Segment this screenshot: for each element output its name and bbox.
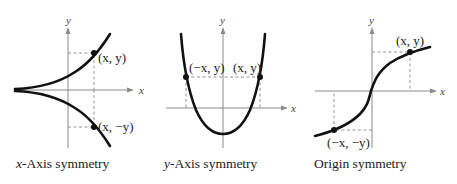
point-x-y xyxy=(407,49,413,55)
curve-lower xyxy=(15,91,110,146)
point-x-y xyxy=(91,50,97,56)
caption-text: -Axis symmetry xyxy=(22,156,109,171)
label-x-y: (x, y) xyxy=(98,50,126,65)
caption-text: -Axis symmetry xyxy=(170,156,257,171)
x-axis-label: x xyxy=(138,84,144,96)
y-axis-arrow-icon xyxy=(66,27,71,34)
curve-upper xyxy=(15,34,110,89)
label-neg-x-y: (−x, y) xyxy=(189,60,225,75)
guide-lines-lower xyxy=(334,91,372,130)
y-axis-label: y xyxy=(368,14,374,26)
x-axis-label: x xyxy=(439,85,445,97)
label-x-y: (x, y) xyxy=(396,33,424,48)
y-axis-arrow-icon xyxy=(370,27,375,34)
caption-origin-symmetry: Origin symmetry xyxy=(314,156,407,172)
x-axis-label: x xyxy=(290,102,296,114)
label-x-y: (x, y) xyxy=(233,60,261,75)
point-x-neg-y xyxy=(91,124,97,130)
y-axis-arrow-icon xyxy=(221,27,226,34)
x-axis-arrow-icon xyxy=(430,89,437,94)
point-neg-x-neg-y xyxy=(331,127,337,133)
caption-y-axis-symmetry: y-Axis symmetry xyxy=(164,156,257,172)
x-axis-arrow-icon xyxy=(127,88,134,93)
label-x-neg-y: (x, −y) xyxy=(98,119,134,134)
panel-x-axis-symmetry: y x (x, y) (x, −y) xyxy=(14,14,144,148)
y-axis-label: y xyxy=(65,14,71,26)
panel-y-axis-symmetry: y x (−x, y) (x, y) xyxy=(166,14,296,148)
label-neg-x-neg-y: (−x, −y) xyxy=(327,135,370,150)
guide-lines-upper xyxy=(372,52,410,91)
x-axis-arrow-icon xyxy=(281,106,288,111)
panel-origin-symmetry: y x (x, y) (−x, −y) xyxy=(315,14,445,150)
caption-x-axis-symmetry: x-Axis symmetry xyxy=(16,156,109,172)
y-axis-label: y xyxy=(219,14,225,26)
caption-text: Origin symmetry xyxy=(314,156,407,171)
